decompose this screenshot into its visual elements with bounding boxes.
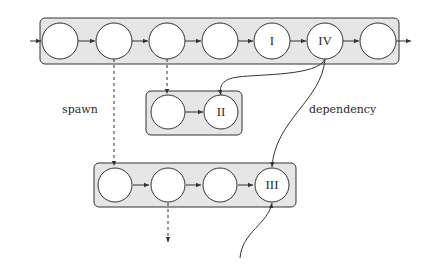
node-label-ii: II	[217, 104, 226, 120]
node	[96, 23, 132, 59]
node-label-i: I	[270, 33, 274, 49]
node	[42, 23, 78, 59]
node	[98, 168, 132, 202]
node	[203, 168, 237, 202]
node	[360, 23, 396, 59]
diagram-svg	[0, 0, 441, 276]
node	[149, 23, 185, 59]
spawn-edges	[114, 59, 168, 242]
node	[202, 23, 238, 59]
diagram-canvas: I IV II III spawn dependency	[0, 0, 441, 276]
dependency-label: dependency	[309, 103, 376, 116]
spawn-label: spawn	[62, 103, 98, 116]
node-label-iii: III	[266, 177, 279, 193]
node	[151, 95, 185, 129]
node	[151, 168, 185, 202]
node-label-iv: IV	[318, 33, 332, 49]
dependency-edges	[220, 59, 325, 258]
